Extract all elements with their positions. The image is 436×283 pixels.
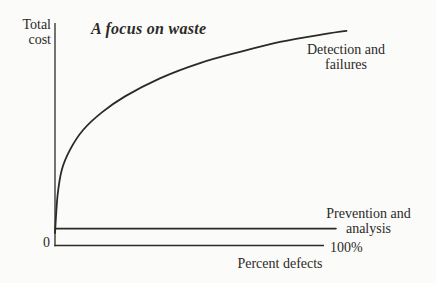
y-axis-label: Total cost	[9, 17, 51, 47]
series-label-prevention-and-analysis: Prevention and analysis	[318, 206, 419, 236]
x-max-tick-label: 100%	[330, 240, 363, 255]
series-label-detection-and-failures: Detection and failures	[295, 42, 397, 72]
origin-tick-label: 0	[36, 235, 50, 250]
cost-of-quality-chart: A focus on waste Total cost Detection an…	[0, 0, 436, 283]
x-axis-label: Percent defects	[228, 256, 332, 271]
chart-title: A focus on waste	[91, 21, 207, 36]
